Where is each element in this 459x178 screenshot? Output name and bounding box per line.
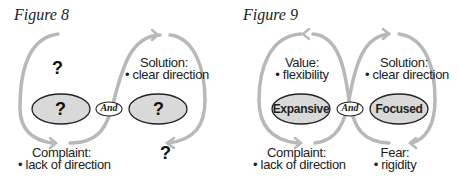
bottom-right-question: ? — [160, 143, 171, 164]
focused-pole-text: Focused — [370, 103, 428, 115]
bottom-left-bullet: • lack of direction — [253, 159, 346, 171]
bottom-right-bullet: • rigidity — [373, 159, 417, 171]
top-left-bullet: • flexibility — [269, 69, 335, 81]
right-loop-outer-arc — [399, 34, 435, 143]
top-right-bullet: • clear direction — [365, 69, 443, 81]
left-loop-outer-arc — [259, 34, 301, 143]
bottom-left-bullet: • lack of direction — [18, 159, 111, 171]
figure-title: Figure 8 — [14, 6, 69, 24]
figure-9: Figure 9 Value: • flexibility Solution: … — [229, 0, 458, 178]
bottom-left-label: Complaint: • lack of direction — [253, 147, 346, 171]
figure-8: Figure 8 ? Solution: • clear direction ?… — [0, 0, 229, 178]
top-left-question: ? — [52, 58, 63, 79]
top-right-bullet: • clear direction — [125, 69, 203, 81]
left-pole-text: ? — [55, 99, 66, 120]
right-pole-text: ? — [153, 99, 164, 120]
and-connector-text: And — [337, 102, 363, 113]
right-loop-outer-arc — [168, 35, 205, 143]
expansive-pole-text: Expansive — [272, 103, 330, 115]
and-connector-text: And — [96, 102, 122, 113]
bottom-left-label: Complaint: • lack of direction — [18, 147, 111, 171]
arrowhead-top-left-icon — [303, 29, 309, 39]
figure-title: Figure 9 — [243, 6, 298, 24]
left-loop-outer-arc — [20, 34, 58, 143]
top-right-label: Solution: • clear direction — [365, 57, 443, 81]
top-right-label: Solution: • clear direction — [125, 57, 203, 81]
s-curve-arc — [70, 35, 160, 143]
top-left-label: Value: • flexibility — [269, 57, 335, 81]
bottom-right-label: Fear: • rigidity — [373, 147, 417, 171]
bottom-left-to-top-right-cross-arc — [315, 34, 389, 143]
